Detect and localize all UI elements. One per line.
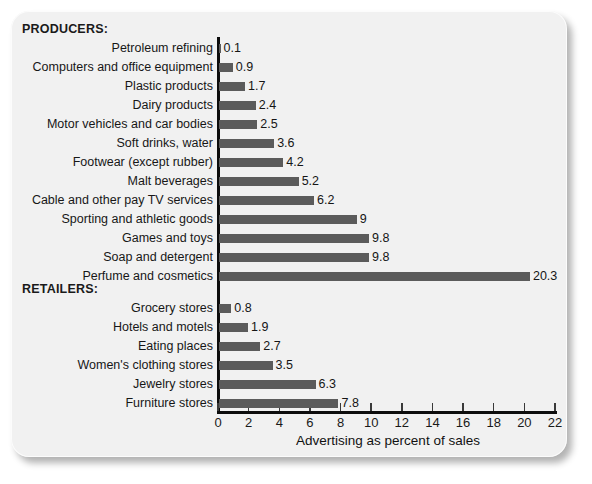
- bar-value-label: 3.6: [277, 134, 294, 153]
- bar-row: Sporting and athletic goods9: [0, 210, 592, 229]
- bar-value-label: 2.5: [260, 115, 277, 134]
- bar-value-label: 1.9: [251, 318, 268, 337]
- x-axis-tick-label: 12: [395, 415, 409, 430]
- bar-row: Footwear (except rubber)4.2: [0, 153, 592, 172]
- bar-row-label: Women's clothing stores: [23, 356, 213, 375]
- bar-value-label: 0.9: [236, 58, 253, 77]
- bar: [219, 272, 530, 281]
- bar-row: Women's clothing stores3.5: [0, 356, 592, 375]
- bar-row: Games and toys9.8: [0, 229, 592, 248]
- bar-row-label: Eating places: [23, 337, 213, 356]
- bar: [219, 139, 274, 148]
- x-axis-tick-label: 0: [214, 415, 221, 430]
- bar-value-label: 20.3: [533, 267, 557, 286]
- bar-row: Computers and office equipment0.9: [0, 58, 592, 77]
- bar: [219, 158, 283, 167]
- bar-row-label: Malt beverages: [23, 172, 213, 191]
- bar-row-label: Dairy products: [23, 96, 213, 115]
- bar-row-label: Footwear (except rubber): [23, 153, 213, 172]
- bar-row-label: Games and toys: [23, 229, 213, 248]
- bar-row-label: Perfume and cosmetics: [23, 267, 213, 286]
- bar-row: Grocery stores0.8: [0, 299, 592, 318]
- bar-value-label: 0.8: [234, 299, 251, 318]
- bar-value-label: 6.3: [319, 375, 336, 394]
- x-axis-tick-label: 6: [306, 415, 313, 430]
- bar-value-label: 2.4: [259, 96, 276, 115]
- bar: [219, 304, 231, 313]
- bar-row: Soft drinks, water3.6: [0, 134, 592, 153]
- bar-row-label: Jewelry stores: [23, 375, 213, 394]
- bar-row-label: Soap and detergent: [23, 248, 213, 267]
- bar: [219, 177, 299, 186]
- x-axis-tick-label: 16: [456, 415, 470, 430]
- bar-row: Soap and detergent9.8: [0, 248, 592, 267]
- bar-row-label: Sporting and athletic goods: [23, 210, 213, 229]
- bar-row-label: Hotels and motels: [23, 318, 213, 337]
- bar-row: Furniture stores7.8: [0, 394, 592, 413]
- bar-row-label: Computers and office equipment: [23, 58, 213, 77]
- bar-row: Motor vehicles and car bodies2.5: [0, 115, 592, 134]
- bar: [219, 234, 369, 243]
- bar: [219, 361, 273, 370]
- x-axis-tick-label: 8: [337, 415, 344, 430]
- bar-row: Eating places2.7: [0, 337, 592, 356]
- x-axis-tick-label: 18: [486, 415, 500, 430]
- chart-screenshot: PRODUCERS: RETAILERS: 024681012141618202…: [0, 0, 592, 484]
- bar-row-label: Plastic products: [23, 77, 213, 96]
- bar-row-label: Motor vehicles and car bodies: [23, 115, 213, 134]
- bar-value-label: 0.1: [224, 39, 241, 58]
- bar: [219, 380, 316, 389]
- bar-row-label: Furniture stores: [23, 394, 213, 413]
- bar-row-label: Grocery stores: [23, 299, 213, 318]
- bar-value-label: 1.7: [248, 77, 265, 96]
- bar-value-label: 5.2: [302, 172, 319, 191]
- bar-value-label: 7.8: [341, 394, 358, 413]
- bar-row: Jewelry stores6.3: [0, 375, 592, 394]
- bar-row: Malt beverages5.2: [0, 172, 592, 191]
- section-heading-producers: PRODUCERS:: [22, 22, 108, 36]
- bar-value-label: 3.5: [276, 356, 293, 375]
- bar-value-label: 6.2: [317, 191, 334, 210]
- x-axis-tick-label: 2: [245, 415, 252, 430]
- bar-row: Perfume and cosmetics20.3: [0, 267, 592, 286]
- bar-row-label: Soft drinks, water: [23, 134, 213, 153]
- bar-value-label: 2.7: [263, 337, 280, 356]
- bar-row: Plastic products1.7: [0, 77, 592, 96]
- bar: [219, 323, 248, 332]
- x-axis-tick-label: 4: [276, 415, 283, 430]
- bar: [219, 44, 221, 53]
- x-axis-tick-label: 10: [364, 415, 378, 430]
- bar: [219, 253, 369, 262]
- bar-row: Hotels and motels1.9: [0, 318, 592, 337]
- bar-value-label: 9.8: [372, 248, 389, 267]
- x-axis-tick-label: 20: [517, 415, 531, 430]
- x-axis-tick-label: 14: [425, 415, 439, 430]
- bar: [219, 63, 233, 72]
- bar-value-label: 9.8: [372, 229, 389, 248]
- bar: [219, 215, 357, 224]
- bar: [219, 342, 260, 351]
- bar-row-label: Cable and other pay TV services: [23, 191, 213, 210]
- bar: [219, 399, 338, 408]
- x-axis-tick-label: 22: [548, 415, 562, 430]
- bar: [219, 82, 245, 91]
- bar: [219, 196, 314, 205]
- bar-row: Dairy products2.4: [0, 96, 592, 115]
- bar: [219, 120, 257, 129]
- bar: [219, 101, 256, 110]
- x-axis-title: Advertising as percent of sales: [218, 433, 558, 448]
- bar-value-label: 4.2: [286, 153, 303, 172]
- bar-row-label: Petroleum refining: [23, 39, 213, 58]
- bar-row: Cable and other pay TV services6.2: [0, 191, 592, 210]
- bar-row: Petroleum refining0.1: [0, 39, 592, 58]
- bar-value-label: 9: [360, 210, 367, 229]
